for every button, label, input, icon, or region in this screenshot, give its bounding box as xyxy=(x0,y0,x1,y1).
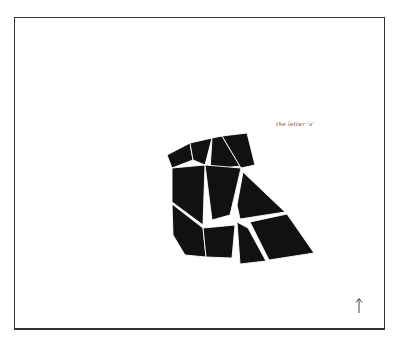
figure-caption: the letter 'a' xyxy=(276,121,314,127)
tangram-piece xyxy=(190,138,212,165)
tangram-pieces xyxy=(167,133,314,264)
tangram-letter-a xyxy=(0,0,398,343)
up-arrow-icon xyxy=(352,296,366,314)
tangram-piece xyxy=(237,172,285,219)
tangram-piece xyxy=(203,225,235,258)
tangram-piece xyxy=(205,165,241,220)
tangram-piece xyxy=(167,143,193,168)
